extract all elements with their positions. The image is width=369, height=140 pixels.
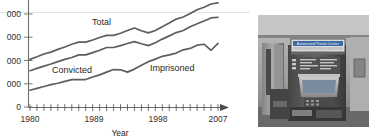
series-label-imprisoned: Imprisoned: [150, 63, 195, 73]
x-tick-label-1989: 1989: [85, 114, 104, 124]
y-tick-label-4: 000: [7, 9, 21, 19]
y-tick-label-1: 000: [7, 79, 21, 89]
series-label-convicted: Convicted: [52, 65, 92, 75]
x-tick-label-1998: 1998: [149, 114, 168, 124]
y-tick-label-2: 000: [7, 56, 21, 66]
x-tick-label-2007: 2007: [209, 114, 228, 124]
figure-root: 000 000 000 000 0 1980 1989 1998 2007 Ye…: [0, 0, 369, 140]
y-tick-label-3: 000: [7, 32, 21, 42]
series-label-total: Total: [92, 17, 111, 27]
line-chart-svg: 000 000 000 000 0 1980 1989 1998 2007 Ye…: [0, 0, 250, 140]
series-line-total: [30, 3, 218, 60]
postal-kiosk-photo-svg: Automated Postal Center: [258, 15, 369, 127]
y-axis-tick-labels: 000 000 000 000 0: [7, 9, 21, 112]
postal-kiosk-photo: Automated Postal Center: [258, 15, 369, 127]
x-axis-arrowhead: [220, 104, 229, 111]
x-axis-tick-labels: 1980 1989 1998 2007: [21, 114, 228, 124]
x-tick-label-1980: 1980: [21, 114, 40, 124]
y-tick-label-0: 0: [16, 102, 21, 112]
line-chart-panel: 000 000 000 000 0 1980 1989 1998 2007 Ye…: [0, 0, 250, 140]
photo-tone-overlay: [258, 15, 369, 127]
x-axis-title: Year: [111, 128, 128, 138]
